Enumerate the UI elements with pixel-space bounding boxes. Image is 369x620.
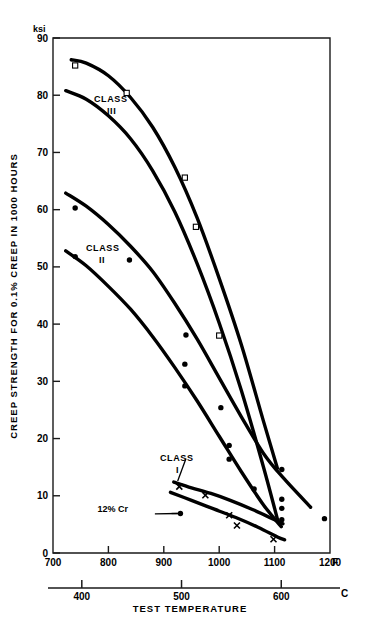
class-ii-label-sub: II: [99, 255, 105, 265]
y-axis-title: CREEP STRENGTH FOR 0.1% CREEP IN 1000 HO…: [8, 153, 19, 439]
y-tick-label: 70: [37, 147, 49, 158]
marker-filled-circle: [72, 254, 77, 259]
y-tick-label: 50: [37, 261, 49, 272]
class-iii-label-sub: III: [107, 106, 116, 116]
y-tick-label: 90: [37, 33, 49, 44]
y-tick-label: 80: [37, 90, 49, 101]
x-tick-label: 1000: [208, 557, 231, 568]
y-tick-label: 60: [37, 204, 49, 215]
marker-filled-circle: [127, 257, 132, 262]
marker-filled-circle: [182, 361, 187, 366]
c-tick-label: 400: [73, 591, 90, 602]
data-markers: [72, 63, 327, 542]
marker-filled-circle: [279, 497, 284, 502]
x-unit-fahrenheit-label: F: [332, 557, 338, 568]
class-iii-label: CLASS: [94, 94, 128, 104]
class-ii-label: CLASS: [86, 243, 120, 253]
marker-filled-circle: [279, 506, 284, 511]
marker-filled-circle: [183, 332, 188, 337]
creep-strength-chart: 0102030405060708090 70080090010001100120…: [0, 0, 369, 620]
marker-cross: [270, 536, 276, 542]
marker-open-square: [73, 63, 78, 68]
x-tick-label: 900: [155, 557, 172, 568]
twelve-percent-cr-label: 12% Cr: [97, 504, 128, 514]
x-tick-label: 800: [100, 557, 117, 568]
class-i-label: CLASS: [160, 453, 194, 463]
plot-frame: [53, 38, 330, 553]
marker-open-square: [182, 175, 187, 180]
x-axis-fahrenheit: 700800900100011001200: [45, 546, 342, 568]
marker-filled-circle: [226, 443, 231, 448]
marker-filled-circle: [226, 456, 231, 461]
class-i-label-sub: I: [176, 465, 179, 475]
x-axis-celsius: 400500600: [48, 580, 340, 602]
y-tick-label: 40: [37, 319, 49, 330]
y-axis: 0102030405060708090: [37, 33, 60, 559]
marker-filled-circle: [182, 383, 187, 388]
x-tick-label: 1100: [264, 557, 286, 568]
y-tick-label: 30: [37, 376, 49, 387]
marker-filled-circle: [251, 486, 256, 491]
marker-filled-circle: [279, 517, 284, 522]
data-curves: [66, 60, 311, 540]
y-tick-label: 20: [37, 433, 49, 444]
marker-filled-circle: [322, 516, 327, 521]
chart-canvas: 0102030405060708090 70080090010001100120…: [0, 0, 369, 620]
marker-open-square: [217, 333, 222, 338]
x-unit-celsius-label: C: [341, 588, 348, 599]
series-curve: [66, 251, 282, 527]
c-tick-label: 600: [273, 591, 290, 602]
x-tick-label: 700: [45, 557, 62, 568]
y-unit-label: ksi: [33, 24, 46, 34]
marker-cross: [234, 523, 240, 529]
y-tick-label: 10: [37, 490, 49, 501]
marker-filled-circle: [72, 205, 77, 210]
c-tick-label: 500: [173, 591, 190, 602]
marker-filled-circle: [279, 467, 284, 472]
x-tick-label: 1200: [319, 557, 342, 568]
series-curve: [174, 482, 283, 524]
marker-filled-circle: [218, 405, 223, 410]
marker-open-square: [193, 224, 198, 229]
x-axis-title: TEST TEMPERATURE: [133, 603, 248, 614]
